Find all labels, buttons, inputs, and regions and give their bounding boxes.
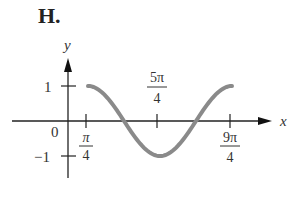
y-tick-label-1: 1 bbox=[44, 79, 52, 95]
x-tick-label-9pi-4-den: 4 bbox=[227, 150, 234, 165]
y-tick-label-neg1: −1 bbox=[34, 149, 50, 165]
y-axis-arrow-icon bbox=[64, 58, 72, 72]
x-axis-label: x bbox=[279, 113, 287, 129]
x-tick-label-5pi-4-num: 5π bbox=[150, 70, 164, 85]
x-axis-arrow-icon bbox=[258, 117, 272, 125]
x-tick-label-pi-4-num: π bbox=[82, 130, 90, 145]
x-tick-label-pi-4-den: 4 bbox=[83, 148, 90, 163]
x-tick-label-9pi-4-num: 9π bbox=[223, 130, 237, 145]
y-axis-label: y bbox=[62, 37, 71, 53]
origin-label: 0 bbox=[51, 124, 59, 140]
x-tick-label-5pi-4-den: 4 bbox=[154, 91, 161, 106]
chart-plot: y x 1 −1 0 π 4 5π 4 9π 4 bbox=[0, 0, 303, 197]
